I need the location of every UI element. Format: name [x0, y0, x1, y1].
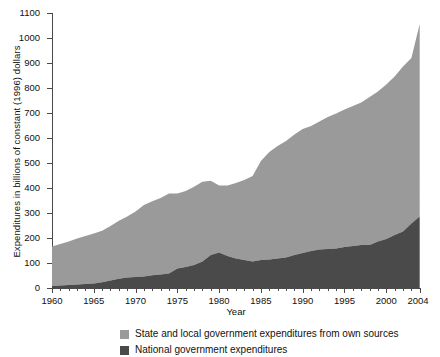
legend-item-state-local: State and local government expenditures …: [120, 328, 398, 340]
y-axis-title: Expenditures in billions of constant (19…: [11, 12, 22, 292]
x-tick: [403, 288, 404, 291]
x-tick: [94, 288, 95, 293]
y-tick-label: 100: [24, 258, 40, 268]
x-tick: [102, 288, 103, 291]
x-tick: [136, 288, 137, 293]
x-tick: [194, 288, 195, 291]
plot-area: 0 100 200 300 400 500 600 700 800 900 10…: [52, 13, 420, 288]
x-tick: [152, 288, 153, 291]
y-tick-label: 400: [24, 183, 40, 193]
x-tick-label: 1985: [250, 296, 271, 306]
x-tick: [244, 288, 245, 291]
x-tick: [411, 288, 412, 291]
x-tick: [127, 288, 128, 291]
x-tick: [386, 288, 387, 293]
x-tick: [395, 288, 396, 291]
x-tick: [202, 288, 203, 291]
legend-item-national: National government expenditures: [120, 344, 398, 356]
x-tick-label: 1960: [41, 296, 62, 306]
x-tick: [52, 288, 53, 293]
legend-label: State and local government expenditures …: [135, 328, 398, 340]
x-tick: [278, 288, 279, 291]
x-tick: [110, 288, 111, 291]
x-tick: [353, 288, 354, 291]
x-tick: [177, 288, 178, 293]
y-tick-label: 700: [24, 108, 40, 118]
x-tick: [169, 288, 170, 291]
x-tick: [311, 288, 312, 291]
x-tick: [219, 288, 220, 293]
y-tick-label: 1000: [19, 33, 40, 43]
x-tick-label: 1980: [209, 296, 230, 306]
x-tick: [336, 288, 337, 291]
y-tick-label: 900: [24, 58, 40, 68]
x-tick: [227, 288, 228, 291]
x-tick-label: 1975: [167, 296, 188, 306]
y-tick-label: 0: [35, 283, 40, 293]
y-tick-label: 300: [24, 208, 40, 218]
x-tick: [119, 288, 120, 291]
x-tick: [253, 288, 254, 291]
x-tick: [420, 288, 421, 293]
x-tick: [85, 288, 86, 291]
x-tick: [319, 288, 320, 291]
y-tick-label: 200: [24, 233, 40, 243]
y-tick-label: 1100: [20, 8, 40, 18]
chart-figure: Expenditures in billions of constant (19…: [0, 0, 440, 357]
x-tick: [303, 288, 304, 293]
x-tick: [77, 288, 78, 291]
x-tick: [144, 288, 145, 291]
x-tick: [211, 288, 212, 291]
x-tick: [378, 288, 379, 291]
x-tick: [161, 288, 162, 291]
x-tick-label: 2004: [407, 296, 428, 306]
x-tick: [261, 288, 262, 293]
legend-swatch-icon: [120, 346, 129, 355]
x-tick: [370, 288, 371, 291]
x-tick: [344, 288, 345, 293]
x-axis-title: Year: [52, 306, 420, 317]
y-tick-label: 600: [24, 133, 40, 143]
x-tick: [186, 288, 187, 291]
x-tick-label: 1970: [125, 296, 146, 306]
y-tick-label: 500: [24, 158, 40, 168]
x-tick: [328, 288, 329, 291]
x-tick: [236, 288, 237, 291]
x-tick: [69, 288, 70, 291]
legend-label: National government expenditures: [135, 344, 287, 356]
x-tick: [294, 288, 295, 291]
x-tick: [361, 288, 362, 291]
x-tick-label: 1990: [292, 296, 313, 306]
x-tick: [286, 288, 287, 291]
x-tick-label: 1965: [83, 296, 104, 306]
x-tick: [60, 288, 61, 291]
x-tick-label: 2000: [376, 296, 397, 306]
legend-swatch-icon: [120, 330, 129, 339]
chart-legend: State and local government expenditures …: [120, 328, 398, 357]
y-tick-label: 800: [24, 83, 40, 93]
x-tick-label: 1995: [334, 296, 355, 306]
stacked-area-series: [52, 13, 420, 289]
x-tick: [269, 288, 270, 291]
